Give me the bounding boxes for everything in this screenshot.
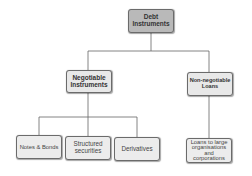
node-label-line: Notes & Bonds [20,144,59,150]
node-label-line: Instruments [70,82,107,89]
node-structured-securities: Structured securities [65,136,111,160]
node-notes-and-bonds: Notes & Bonds [16,135,62,159]
node-label-line: Loans [190,84,231,90]
debt-instruments-diagram: Debt Instruments Negotiable Instruments … [0,0,252,176]
node-label-line: Instruments [132,21,169,28]
node-derivatives: Derivatives [114,137,160,161]
node-negotiable-instruments: Negotiable Instruments [66,70,112,93]
node-label-line: Derivatives [121,146,152,153]
node-label-line: securities [73,148,102,155]
node-debt-instruments: Debt Instruments [128,9,174,33]
node-loans-to-large-organisations: Loans to large organisations and corpora… [186,138,232,163]
node-label-line: corporations [191,156,228,162]
node-non-negotiable-loans: Non-negotiable Loans [187,72,233,96]
